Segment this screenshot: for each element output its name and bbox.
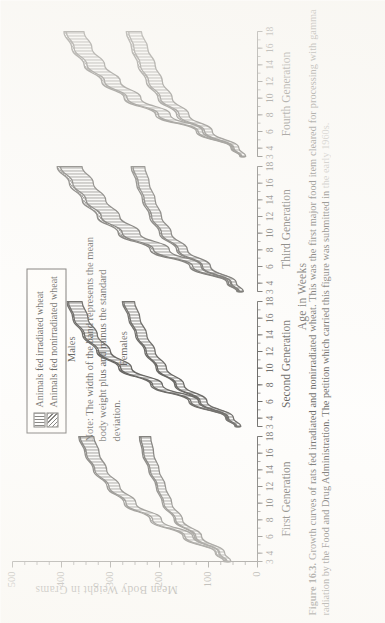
x-tick-label: 8 [264, 512, 274, 526]
x-tick-label: 16 [264, 446, 274, 460]
legend-item-irradiated: Animals fed irradiated wheat [33, 276, 45, 427]
caption-line-1: Growth curves of rats fed irradiated and… [306, 111, 317, 560]
x-tick-label: 14 [264, 192, 274, 206]
panel-label: Second Generation [279, 320, 291, 408]
legend: Animals fed irradiated wheat Animals fed… [26, 268, 66, 433]
y-tick-label: 500 [5, 571, 16, 601]
series-annotation-males: Males [65, 336, 76, 362]
x-tick-label: 8 [264, 107, 274, 121]
legend-item-nonirradiated: Animals fed nonirradiated wheat [46, 276, 58, 427]
caption-line-3: the early 1960s. [319, 122, 330, 187]
x-tick-label: 4 [264, 546, 274, 560]
x-tick-label: 6 [264, 529, 274, 543]
x-tick-label: 12 [264, 479, 274, 493]
plot-area: 0100200300400500 34681012141618346810121… [12, 31, 257, 561]
x-tick-label: 16 [264, 41, 274, 55]
x-tick-label: 10 [264, 91, 274, 105]
figure-page: Mean Body Weight in Grams 01 [0, 0, 385, 623]
x-tick-label: 10 [264, 226, 274, 240]
panel-label: Third Generation [279, 189, 291, 269]
x-tick-label: 4 [264, 411, 274, 425]
x-tick-label: 4 [264, 276, 274, 290]
figure-note: Note: The width of the band represents t… [82, 236, 122, 441]
panel-label: First Generation [279, 461, 291, 536]
x-tick-label: 18 [264, 24, 274, 38]
x-tick-label: 12 [264, 74, 274, 88]
x-tick-label: 16 [264, 311, 274, 325]
y-tick-label: 400 [54, 571, 65, 601]
legend-swatch-crosshatch-icon [46, 412, 58, 427]
y-tick-label: 200 [152, 571, 163, 601]
x-tick-label: 14 [264, 462, 274, 476]
x-tick-label: 6 [264, 124, 274, 138]
x-tick-label: 10 [264, 496, 274, 510]
x-tick-label: 12 [264, 344, 274, 358]
x-tick-label: 14 [264, 327, 274, 341]
x-tick-label: 6 [264, 259, 274, 273]
x-tick-label: 8 [264, 377, 274, 391]
x-tick-label: 14 [264, 57, 274, 71]
panel-label: Fourth Generation [279, 51, 291, 136]
growth-curve-figure: Mean Body Weight in Grams 01 [0, 0, 300, 623]
x-tick-label: 10 [264, 361, 274, 375]
y-tick-label: 300 [103, 571, 114, 601]
figure-caption: Figure 16.3. Growth curves of rats fed i… [305, 9, 332, 615]
y-tick-label: 100 [201, 571, 212, 601]
legend-label-nonirradiated: Animals fed nonirradiated wheat [47, 276, 58, 407]
x-tick-label: 4 [264, 141, 274, 155]
y-tick-label: 0 [250, 571, 261, 601]
x-tick-label: 16 [264, 176, 274, 190]
legend-swatch-vertical-hatch-icon [33, 412, 45, 427]
figure-number: Figure 16.3. [306, 562, 317, 615]
x-tick-label: 6 [264, 394, 274, 408]
x-tick-label: 8 [264, 242, 274, 256]
x-tick-label: 12 [264, 209, 274, 223]
legend-label-irradiated: Animals fed irradiated wheat [33, 291, 44, 407]
